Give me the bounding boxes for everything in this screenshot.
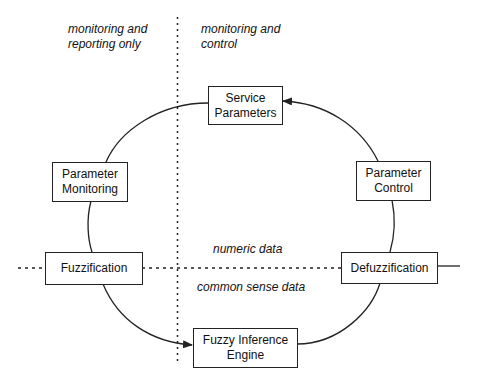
region-label-right-top: monitoring and control bbox=[201, 22, 311, 52]
edge-service-to-monitoring bbox=[106, 103, 208, 162]
region-label-common-sense-data: common sense data bbox=[197, 280, 305, 295]
node-fuzzification: Fuzzification bbox=[45, 252, 143, 285]
edge-defuzzification-to-control bbox=[390, 200, 394, 252]
node-parameter-control: Parameter Control bbox=[356, 161, 431, 201]
edge-control-to-service bbox=[283, 101, 378, 161]
node-parameter-monitoring: Parameter Monitoring bbox=[52, 162, 128, 202]
node-fuzzy-inference-engine: Fuzzy Inference Engine bbox=[193, 328, 298, 368]
node-defuzzification: Defuzzification bbox=[341, 252, 438, 284]
edge-fuzzification-to-engine bbox=[103, 284, 192, 345]
region-label-left-top: monitoring and reporting only bbox=[68, 22, 178, 52]
edge-engine-to-defuzzification bbox=[297, 283, 380, 344]
region-label-numeric-data: numeric data bbox=[213, 242, 282, 257]
node-service-parameters: Service Parameters bbox=[208, 86, 283, 125]
edge-monitoring-to-fuzzification bbox=[88, 201, 92, 252]
